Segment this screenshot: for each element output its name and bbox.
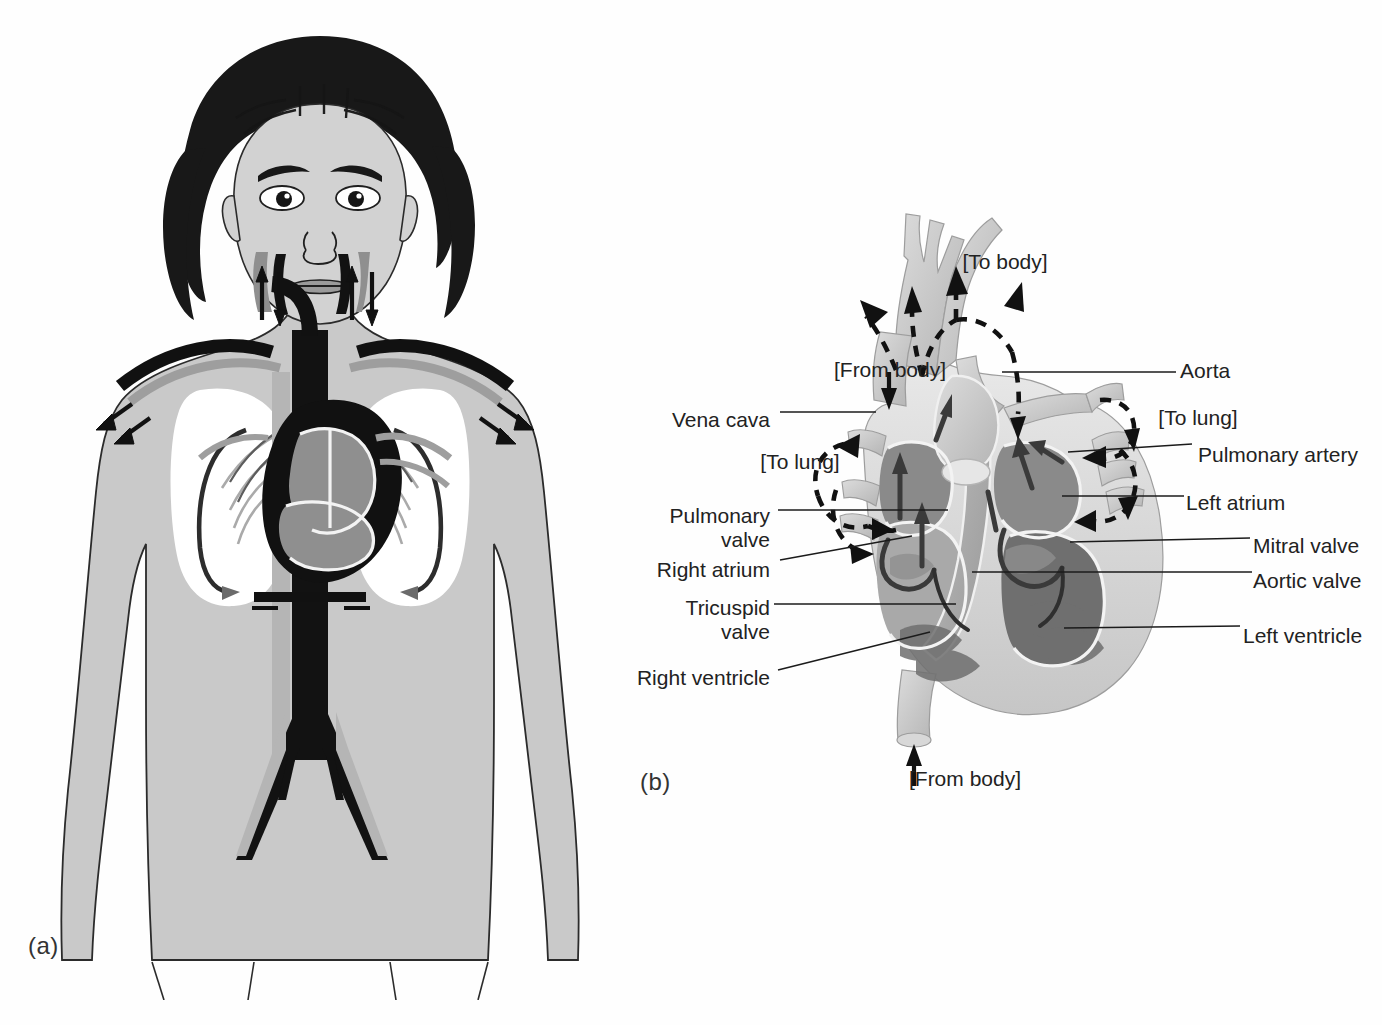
figure-root: (a) bbox=[0, 0, 1382, 1025]
head-illustration bbox=[163, 36, 475, 324]
label-left-atrium: Left atrium bbox=[1186, 491, 1382, 515]
label-pulmonary-artery: Pulmonary artery bbox=[1198, 443, 1382, 467]
label-right-ventricle: Right ventricle bbox=[490, 666, 770, 690]
heart-body bbox=[840, 214, 1163, 747]
label-pulmonary-valve: Pulmonary valve bbox=[490, 504, 770, 551]
label-tricuspid-valve: Tricuspid valve bbox=[490, 596, 770, 643]
callout-to-lung-left: [To lung] bbox=[730, 450, 870, 474]
body-illustration-svg bbox=[0, 0, 640, 1000]
label-left-ventricle: Left ventricle bbox=[1243, 624, 1382, 648]
callout-from-body-bottom: [From body] bbox=[885, 767, 1045, 791]
panel-a-body-diagram: (a) bbox=[0, 0, 640, 1000]
leg-outlines bbox=[152, 962, 488, 1000]
panel-b-caption: (b) bbox=[640, 768, 671, 796]
callout-to-body-top: [To body] bbox=[930, 250, 1080, 274]
callout-to-lung-right: [To lung] bbox=[1128, 406, 1268, 430]
label-aortic-valve: Aortic valve bbox=[1253, 569, 1382, 593]
label-mitral-valve: Mitral valve bbox=[1253, 534, 1382, 558]
panel-a-caption: (a) bbox=[28, 932, 59, 960]
label-aorta: Aorta bbox=[1180, 359, 1380, 383]
label-vena-cava: Vena cava bbox=[560, 408, 770, 432]
label-right-atrium: Right atrium bbox=[490, 558, 770, 582]
callout-from-body-top: [From body] bbox=[810, 358, 970, 382]
